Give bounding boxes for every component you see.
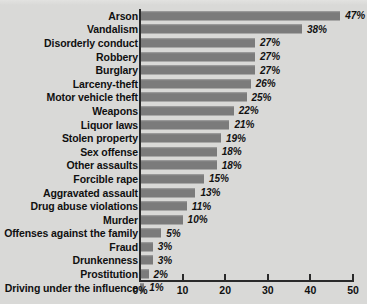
bar-value-label: 13% bbox=[200, 187, 220, 198]
axis-tick-label: 50 bbox=[347, 284, 359, 296]
bar-row: Forcible rape15% bbox=[0, 172, 367, 186]
category-axis-line bbox=[139, 9, 141, 280]
bar-track: 27% bbox=[140, 52, 353, 61]
bar-track: 21% bbox=[140, 120, 353, 129]
bar-track: 3% bbox=[140, 256, 353, 265]
axis-tick-label: 0% bbox=[132, 284, 147, 296]
axis-tick bbox=[267, 274, 269, 281]
category-label: Fraud bbox=[109, 241, 138, 252]
bar bbox=[140, 38, 255, 47]
bar bbox=[140, 106, 234, 115]
axis-tick-label: 40 bbox=[305, 284, 317, 296]
category-label: Other assaults bbox=[66, 160, 138, 171]
category-label: Sex offense bbox=[80, 146, 138, 157]
bar-row: Arson47% bbox=[0, 9, 367, 23]
bar-track: 26% bbox=[140, 79, 353, 88]
axis-tick-label: 30 bbox=[262, 284, 274, 296]
bar-value-label: 11% bbox=[192, 201, 211, 212]
bar-row: Murder10% bbox=[0, 213, 367, 227]
plot-area: Arson47%Vandalism38%Disorderly conduct27… bbox=[0, 9, 367, 281]
bar-track: 47% bbox=[140, 11, 353, 20]
bar-row: Stolen property19% bbox=[0, 131, 367, 145]
bar bbox=[140, 188, 195, 197]
bar-track: 5% bbox=[140, 229, 353, 238]
bar bbox=[140, 93, 247, 102]
bar bbox=[140, 215, 183, 224]
category-label: Driving under the influence bbox=[5, 282, 138, 293]
bar-row: Aggravated assault13% bbox=[0, 186, 367, 200]
bar-row: Fraud3% bbox=[0, 240, 367, 254]
bar bbox=[140, 134, 221, 143]
bar-row: Robbery27% bbox=[0, 50, 367, 64]
bar-track: 38% bbox=[140, 25, 353, 34]
bar bbox=[140, 174, 204, 183]
bar-value-label: 1% bbox=[149, 282, 163, 293]
bar-value-label: 26% bbox=[256, 78, 276, 89]
category-label: Murder bbox=[103, 214, 138, 225]
bar-value-label: 3% bbox=[158, 255, 172, 266]
bar-track: 13% bbox=[140, 188, 353, 197]
bar-row: Weapons22% bbox=[0, 104, 367, 118]
bar-value-label: 27% bbox=[260, 37, 280, 48]
bar bbox=[140, 11, 340, 20]
bar-track: 25% bbox=[140, 93, 353, 102]
bar-track: 22% bbox=[140, 106, 353, 115]
bar-row: Offenses against the family5% bbox=[0, 227, 367, 241]
axis-tick bbox=[352, 274, 354, 281]
bar-value-label: 38% bbox=[307, 24, 327, 35]
bar-value-label: 15% bbox=[209, 173, 229, 184]
category-label: Prostitution bbox=[80, 269, 138, 280]
bar-row: Other assaults18% bbox=[0, 159, 367, 173]
bar-track: 2% bbox=[140, 270, 353, 279]
bar bbox=[140, 161, 217, 170]
bar bbox=[140, 120, 229, 129]
category-label: Weapons bbox=[92, 105, 138, 116]
bar-value-label: 18% bbox=[222, 146, 242, 157]
bar-chart: Arson47%Vandalism38%Disorderly conduct27… bbox=[0, 0, 367, 304]
bar-row: Disorderly conduct27% bbox=[0, 36, 367, 50]
axis-tick bbox=[139, 274, 141, 281]
bar bbox=[140, 52, 255, 61]
bar-value-label: 19% bbox=[226, 133, 246, 144]
value-axis-line bbox=[139, 280, 354, 282]
bar-row: Liquor laws21% bbox=[0, 118, 367, 132]
axis-tick bbox=[224, 274, 226, 281]
category-label: Disorderly conduct bbox=[44, 37, 138, 48]
bar-row: Larceny-theft26% bbox=[0, 77, 367, 91]
axis-tick bbox=[182, 274, 184, 281]
bar-track: 15% bbox=[140, 174, 353, 183]
bar bbox=[140, 256, 153, 265]
bar-value-label: 21% bbox=[234, 119, 254, 130]
category-label: Burglary bbox=[96, 65, 138, 76]
bar bbox=[140, 270, 149, 279]
bar bbox=[140, 79, 251, 88]
bar-row: Vandalism38% bbox=[0, 23, 367, 37]
bar-row: Drug abuse violations11% bbox=[0, 199, 367, 213]
category-label: Arson bbox=[108, 10, 138, 21]
category-label: Drunkenness bbox=[73, 255, 138, 266]
bar-value-label: 22% bbox=[239, 105, 259, 116]
category-label: Forcible rape bbox=[73, 173, 138, 184]
bar-track: 18% bbox=[140, 147, 353, 156]
category-label: Vandalism bbox=[87, 24, 138, 35]
bar-track: 27% bbox=[140, 66, 353, 75]
bar bbox=[140, 202, 187, 211]
top-scan-artifact bbox=[0, 0, 367, 5]
category-label: Larceny-theft bbox=[73, 78, 138, 89]
category-label: Aggravated assault bbox=[43, 187, 138, 198]
bar-row: Drunkenness3% bbox=[0, 254, 367, 268]
category-label: Drug abuse violations bbox=[30, 201, 138, 212]
bar-track: 10% bbox=[140, 215, 353, 224]
bar-row: Sex offense18% bbox=[0, 145, 367, 159]
bar-track: 11% bbox=[140, 202, 353, 211]
bar-value-label: 25% bbox=[252, 92, 272, 103]
axis-tick-label: 20 bbox=[219, 284, 231, 296]
category-label: Motor vehicle theft bbox=[47, 92, 138, 103]
bar-track: 19% bbox=[140, 134, 353, 143]
bar-value-label: 18% bbox=[222, 160, 242, 171]
category-label: Stolen property bbox=[62, 133, 138, 144]
bar-value-label: 2% bbox=[154, 269, 168, 280]
bar bbox=[140, 147, 217, 156]
category-label: Liquor laws bbox=[81, 119, 138, 130]
bar-track: 1% bbox=[140, 283, 353, 292]
